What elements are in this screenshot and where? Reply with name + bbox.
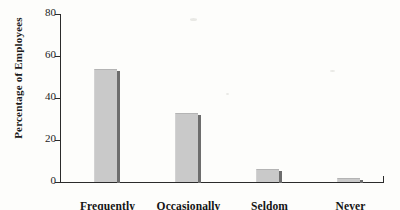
x-axis-label: Seldom xyxy=(251,200,288,210)
bar-shadow xyxy=(279,171,282,183)
y-tick-label: 60 xyxy=(45,48,56,60)
chart-screenshot: Percentage of Employees 0 20 40 60 80 xyxy=(0,0,400,210)
x-axis-label: Occasionally xyxy=(157,200,221,210)
x-axis-line xyxy=(60,182,384,183)
plot-area: 0 20 40 60 80 FrequentlyOccasionallySeld… xyxy=(60,14,384,182)
y-tick-label: 0 xyxy=(51,174,57,186)
bar xyxy=(94,69,117,182)
y-tick-label: 40 xyxy=(45,90,56,102)
bar xyxy=(256,169,279,182)
y-tick-label: 20 xyxy=(45,132,56,144)
bar xyxy=(337,178,360,182)
y-tick-label: 80 xyxy=(45,6,56,18)
x-axis-label: Never xyxy=(336,200,366,210)
bar-shadow xyxy=(360,180,363,183)
bar-shadow xyxy=(198,115,201,183)
y-axis-title: Percentage of Employees xyxy=(12,0,24,158)
x-axis-end-tick xyxy=(383,176,384,183)
bar xyxy=(175,113,198,182)
bar-shadow xyxy=(117,71,120,183)
y-axis-line xyxy=(60,14,61,183)
x-axis-label: Frequently xyxy=(80,200,135,210)
